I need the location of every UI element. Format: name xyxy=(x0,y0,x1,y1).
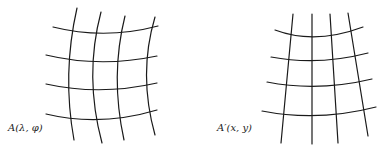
left-parallel-3 xyxy=(46,83,157,90)
right-parallel-4 xyxy=(262,107,376,116)
left-meridian-1 xyxy=(69,8,77,140)
left-parallel-1 xyxy=(53,26,158,33)
left-point-label: A(λ, φ) xyxy=(8,122,43,133)
right-graticule xyxy=(262,13,376,144)
right-meridian-3 xyxy=(330,14,338,143)
left-meridian-4 xyxy=(147,17,156,135)
left-meridian-2 xyxy=(93,12,102,143)
right-parallel-2 xyxy=(271,53,368,61)
left-graticule xyxy=(46,8,158,143)
right-parallel-3 xyxy=(267,79,372,86)
left-parallel-4 xyxy=(46,110,157,120)
left-meridian-3 xyxy=(117,16,125,140)
right-parallel-1 xyxy=(275,27,363,37)
right-point-label: A′(x, y) xyxy=(217,122,252,133)
left-parallel-2 xyxy=(46,55,157,62)
map-projection-diagram xyxy=(0,0,378,151)
